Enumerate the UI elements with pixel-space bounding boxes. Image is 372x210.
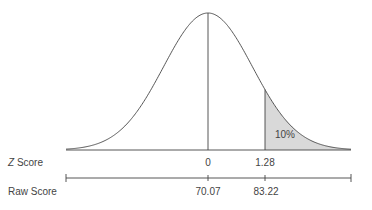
z-tick-label-mean: 0: [205, 157, 211, 169]
z-score-axis-label: Z Score: [8, 157, 43, 169]
raw-tick-label-mean: 70.07: [195, 186, 220, 198]
z-tick-label-cutoff: 1.28: [255, 157, 274, 169]
raw-score-axis-label: Raw Score: [8, 186, 57, 198]
normal-curve: [66, 13, 351, 149]
raw-tick-label-cutoff: 83.22: [253, 186, 278, 198]
score-word: Score: [14, 157, 43, 168]
normal-distribution-chart: [0, 0, 372, 210]
shaded-percent-label: 10%: [275, 129, 295, 141]
